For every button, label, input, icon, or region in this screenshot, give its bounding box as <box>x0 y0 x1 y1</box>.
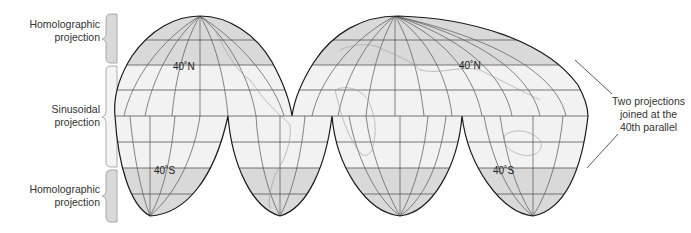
lat-label-40n-east: 40˚N <box>459 60 481 71</box>
brace-homolographic-bottom <box>102 170 117 222</box>
lat-label-40s-west: 40˚S <box>154 165 175 176</box>
lat-label-40n-west: 40˚N <box>173 61 195 72</box>
annotation-label: Two projections joined at the 40th paral… <box>606 95 691 134</box>
brace-homolographic-top <box>102 14 117 63</box>
goode-homolosine-map: 40˚N 40˚S 40˚N 40˚S <box>0 0 691 233</box>
lat-label-40s-east: 40˚S <box>493 165 514 176</box>
